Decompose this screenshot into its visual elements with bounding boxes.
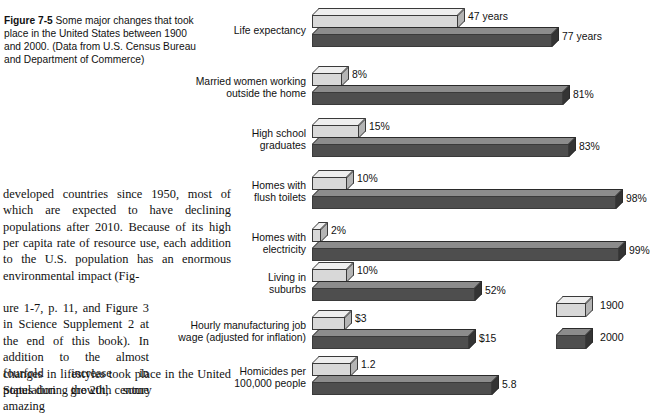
- category-label: Life expectancy: [106, 25, 306, 37]
- bar-2000: [312, 85, 563, 98]
- bar-face-top: [312, 85, 570, 92]
- value-label-2000: 81%: [573, 89, 594, 101]
- category-label: Living in suburbs: [106, 272, 306, 296]
- value-label-2000: 52%: [485, 285, 506, 297]
- bar-face-top: [312, 375, 499, 382]
- bar-face-top: [312, 241, 626, 248]
- legend-label: 1900: [600, 299, 624, 311]
- value-label-1900: 10%: [357, 173, 378, 185]
- value-label-1900: 47 years: [468, 11, 508, 23]
- bar-face-front: [312, 196, 616, 209]
- bar-2000: [312, 27, 552, 40]
- bar-face-front: [312, 336, 469, 349]
- bar-2000: [312, 189, 616, 202]
- bar-2000: [312, 329, 469, 342]
- bar-2000: [312, 241, 619, 254]
- value-label-1900: 10%: [357, 265, 378, 277]
- bar-1900: [312, 356, 351, 369]
- bar-1900: [312, 222, 321, 235]
- value-label-1900: $3: [355, 313, 367, 325]
- bar-face-front: [312, 144, 569, 157]
- bar-face-front: [312, 248, 619, 261]
- legend-swatch-2000: [556, 328, 586, 342]
- bar-face-top: [312, 329, 476, 336]
- bar-face-front: [312, 34, 552, 47]
- legend-swatch-face-front: [556, 303, 586, 317]
- bar-face-top: [312, 137, 576, 144]
- category-label: Homes with electricity: [106, 232, 306, 256]
- bar-face-front: [312, 288, 475, 301]
- value-label-2000: 98%: [626, 193, 647, 205]
- category-label: Married women working outside the home: [106, 76, 306, 100]
- bar-2000: [312, 375, 492, 388]
- value-label-1900: 15%: [369, 121, 390, 133]
- bar-1900: [312, 66, 342, 79]
- bar-2000: [312, 137, 569, 150]
- legend-swatch-face-front: [556, 335, 586, 349]
- value-label-1900: 8%: [352, 69, 367, 81]
- value-label-1900: 1.2: [361, 359, 375, 371]
- bar-face-top: [312, 8, 465, 15]
- legend-swatch-1900: [556, 296, 586, 310]
- value-label-2000: 77 years: [562, 31, 602, 43]
- bar-face-top: [312, 27, 559, 34]
- bar-2000: [312, 281, 475, 294]
- bar-1900: [312, 310, 345, 323]
- value-label-2000: $15: [479, 333, 496, 345]
- category-label: Homes with flush toilets: [106, 180, 306, 204]
- category-label: Hourly manufacturing job wage (adjusted …: [106, 320, 306, 344]
- value-label-1900: 2%: [331, 225, 346, 237]
- bar-1900: [312, 118, 359, 131]
- value-label-2000: 83%: [579, 141, 600, 153]
- category-label: Homicides per 100,000 people: [106, 366, 306, 390]
- bar-face-front: [312, 382, 492, 395]
- value-label-2000: 5.8: [502, 379, 516, 391]
- bar-1900: [312, 8, 458, 21]
- bar-1900: [312, 262, 347, 275]
- bar-face-top: [312, 189, 623, 196]
- legend-label: 2000: [600, 331, 624, 343]
- category-label: High school graduates: [106, 128, 306, 152]
- value-label-2000: 99%: [629, 245, 650, 257]
- bar-1900: [312, 170, 347, 183]
- bar-face-top: [312, 118, 366, 125]
- bar-face-front: [312, 92, 563, 105]
- bar-face-top: [312, 281, 482, 288]
